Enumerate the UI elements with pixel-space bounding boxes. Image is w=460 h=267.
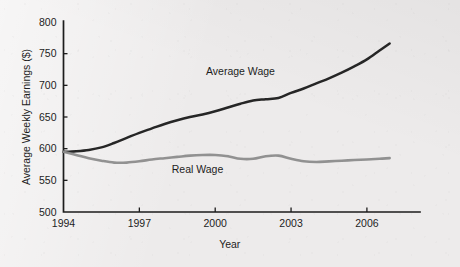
axis-spine [64,21,421,212]
x-axis-tick-label: 2003 [279,217,303,229]
chart-figure: 5005506006507007508001994199720002003200… [0,0,460,267]
y-axis-tick-label: 500 [39,206,57,218]
y-axis-tick-label: 750 [39,47,57,59]
series-annotation-average-wage: Average Wage [206,65,275,77]
line-chart: 5005506006507007508001994199720002003200… [0,0,460,267]
y-axis-tick-label: 550 [39,174,57,186]
y-axis-tick-label: 700 [39,79,57,91]
x-axis-tick-label: 2006 [355,217,379,229]
x-axis-tick-label: 1994 [52,217,76,229]
x-axis-tick-label: 1997 [128,217,152,229]
x-axis-title: Year [219,238,241,250]
series-annotation-real-wage: Real Wage [172,163,224,175]
series-line-average-wage [64,44,390,152]
y-axis-title: Average Weekly Earnings ($) [20,49,32,185]
x-axis-tick-label: 2000 [204,217,228,229]
series-line-real-wage [64,152,390,163]
y-axis-tick-label: 600 [39,142,57,154]
y-axis-tick-label: 650 [39,111,57,123]
y-axis-tick-label: 800 [39,16,57,28]
